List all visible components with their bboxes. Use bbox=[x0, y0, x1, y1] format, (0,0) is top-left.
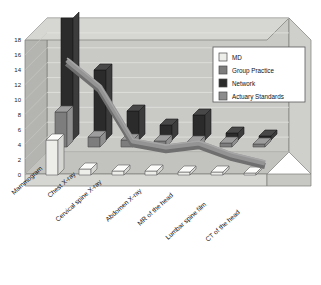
legend-swatch-network[interactable] bbox=[219, 79, 227, 87]
legend: MD Group Practice Network Actuary Standa… bbox=[213, 47, 305, 102]
bar-chart-3d: 18 16 14 12 10 8 6 4 2 0 bbox=[0, 0, 321, 285]
y-tick-14: 14 bbox=[14, 67, 21, 73]
y-tick-18: 18 bbox=[14, 37, 21, 43]
y-tick-4: 4 bbox=[18, 142, 22, 148]
chart-container: 18 16 14 12 10 8 6 4 2 0 bbox=[0, 0, 321, 285]
legend-label-network: Network bbox=[232, 80, 256, 87]
y-tick-8: 8 bbox=[18, 112, 22, 118]
legend-label-md: MD bbox=[232, 54, 242, 61]
legend-label-actuary-standards: Actuary Standards bbox=[232, 93, 284, 101]
legend-swatch-actuary-standards[interactable] bbox=[219, 92, 227, 100]
legend-label-group-practice: Group Practice bbox=[232, 67, 274, 75]
y-tick-10: 10 bbox=[14, 97, 21, 103]
legend-swatch-md[interactable] bbox=[219, 53, 227, 61]
y-tick-6: 6 bbox=[18, 127, 22, 133]
bar-md-mammogram bbox=[46, 134, 64, 175]
y-tick-16: 16 bbox=[14, 52, 21, 58]
x-label-lumbar-spine-film: Lumbar spine film bbox=[164, 200, 208, 241]
x-label-abdomen-xray: Abdomen X-ray bbox=[104, 186, 144, 223]
x-label-ct-of-the-head: CT of the head bbox=[204, 208, 241, 243]
y-tick-2: 2 bbox=[18, 157, 22, 163]
y-tick-12: 12 bbox=[14, 82, 21, 88]
y-tick-0: 0 bbox=[18, 172, 22, 178]
legend-swatch-group-practice[interactable] bbox=[219, 66, 227, 74]
floor-right-face bbox=[267, 174, 311, 186]
y-axis: 18 16 14 12 10 8 6 4 2 0 bbox=[14, 37, 21, 178]
x-label-mr-of-the-head: MR of the head bbox=[136, 191, 174, 227]
bar-network-mr-of-the-head bbox=[193, 109, 211, 140]
